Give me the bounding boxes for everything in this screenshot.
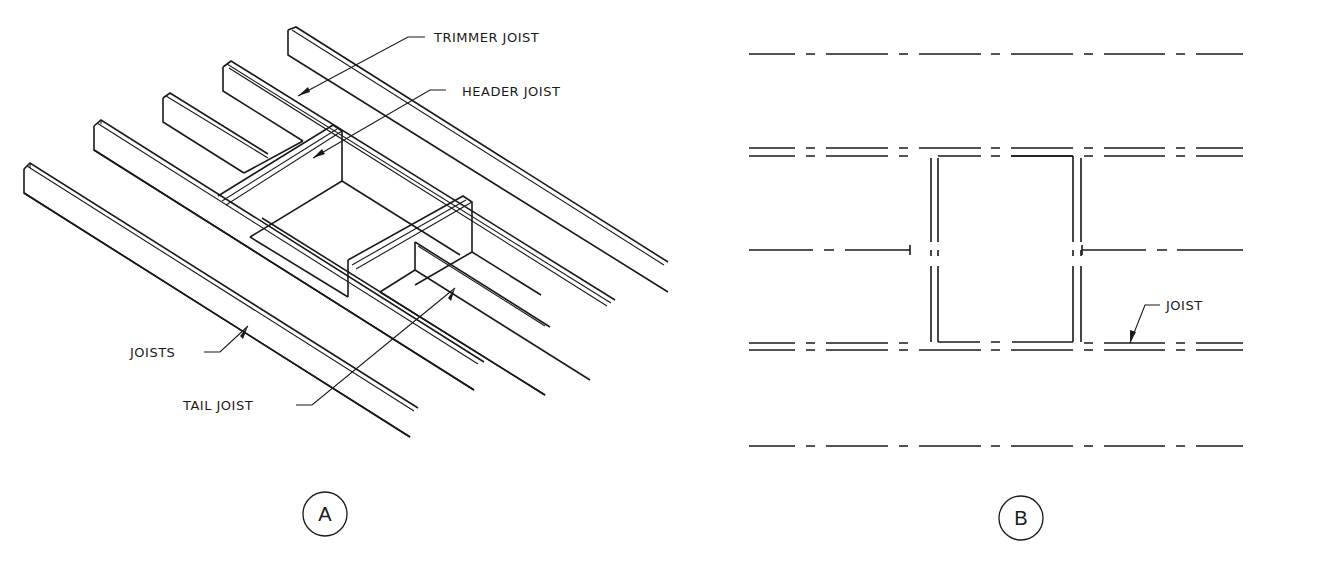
joists-label: JOISTS	[129, 345, 175, 360]
opening-headers	[931, 156, 1081, 342]
joist-label: JOIST	[1165, 298, 1203, 313]
joist-3	[163, 93, 268, 173]
header-joist-label: HEADER JOIST	[462, 84, 560, 99]
tail-joist-centerlines	[749, 245, 1243, 255]
joist-top	[288, 27, 668, 292]
floor-framing-drawing: TRIMMER JOIST HEADER JOIST JOISTS TAIL J…	[0, 0, 1318, 563]
figure-b-plan-view: JOIST B	[749, 54, 1243, 540]
joists-callout: JOISTS	[129, 326, 248, 360]
figure-b-caption: B	[999, 496, 1043, 540]
figure-a-caption-text: A	[318, 503, 332, 525]
figure-a-isometric-framing: TRIMMER JOIST HEADER JOIST JOISTS TAIL J…	[24, 27, 668, 536]
figure-b-caption-text: B	[1014, 507, 1027, 529]
figure-a-caption: A	[303, 492, 347, 536]
header-joist-upper	[218, 125, 342, 237]
tail-joist-label: TAIL JOIST	[182, 398, 253, 413]
trimmer-joist-row-bottom	[749, 343, 1243, 350]
trimmer-joist-row-top	[749, 148, 1243, 156]
joist-extensions	[262, 218, 545, 395]
joist-callout: JOIST	[1130, 298, 1203, 343]
joist-1	[24, 163, 418, 437]
trimmer-joist-label: TRIMMER JOIST	[433, 30, 539, 45]
